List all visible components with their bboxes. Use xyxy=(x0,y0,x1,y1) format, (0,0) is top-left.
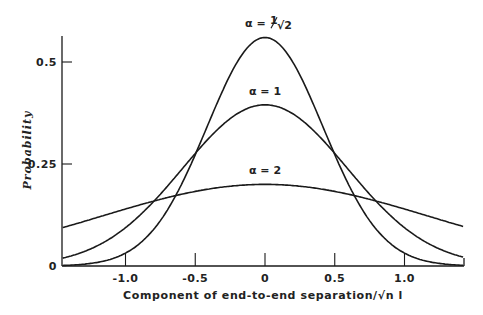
x-tick-label: -1.0 xyxy=(112,272,138,285)
x-tick-label: 0.5 xyxy=(324,272,345,285)
x-tick-label: 0 xyxy=(261,272,269,285)
curve-series-0 xyxy=(63,38,463,266)
curves xyxy=(63,38,463,266)
x-axis-title: Component of end-to-end separation/√n l xyxy=(123,289,403,302)
probability-distribution-chart: -1.0-0.500.51.0 00.250.5 α = 1√2α = 1α =… xyxy=(0,0,483,315)
x-tick-label: 1.0 xyxy=(394,272,415,285)
x-tick-label: -0.5 xyxy=(182,272,208,285)
y-tick-label: 0.5 xyxy=(36,56,57,69)
curve-series-1 xyxy=(63,105,463,258)
curve-label: α = 2 xyxy=(249,164,281,177)
curve-label-denominator: √2 xyxy=(277,19,292,32)
axes xyxy=(62,36,464,266)
x-ticks: -1.0-0.500.51.0 xyxy=(112,253,415,285)
y-tick-label: 0 xyxy=(49,260,57,273)
curve-label: α = 1 xyxy=(249,85,281,98)
curve-series-2 xyxy=(63,184,463,227)
y-ticks: 00.250.5 xyxy=(28,56,72,273)
curve-label: α = xyxy=(245,17,266,30)
y-axis-title: Probability xyxy=(21,110,34,191)
